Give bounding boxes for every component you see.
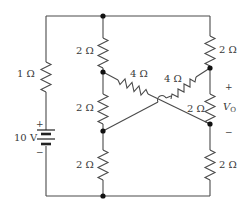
node-A — [100, 69, 105, 74]
vo-minus-sign: − — [225, 128, 233, 137]
resistor-right-bottom-icon — [205, 150, 215, 180]
resistor-diag-right-label: 4 Ω — [164, 74, 182, 84]
circuit-diagram: 1 Ω 2 Ω 2 Ω 2 Ω 2 Ω 2 Ω 2 Ω 4 Ω 4 Ω 10 V… — [0, 0, 248, 214]
source-voltage-label: 10 V — [14, 133, 37, 143]
diag-wire-C-end — [103, 102, 158, 131]
resistor-mid-top-icon — [98, 38, 108, 68]
diag-wire-C-mid — [166, 96, 171, 98]
node-C — [207, 65, 212, 70]
resistor-mid-center-label: 2 Ω — [76, 103, 94, 113]
resistor-right-top-label: 2 Ω — [219, 45, 237, 55]
vo-label: VO — [223, 102, 236, 114]
resistor-diag-left-icon — [118, 79, 148, 95]
resistor-1ohm-icon — [41, 62, 51, 92]
resistor-mid-center-icon — [98, 94, 108, 124]
resistor-mid-bottom-icon — [98, 150, 108, 180]
resistor-1ohm-label: 1 Ω — [17, 69, 35, 79]
node-D — [207, 121, 212, 126]
resistor-right-center-label: 2 Ω — [187, 104, 205, 114]
vo-plus-sign: + — [225, 83, 233, 92]
vo-label-sub: O — [230, 106, 236, 114]
resistor-right-center-icon — [205, 94, 215, 124]
battery-icon — [37, 130, 55, 144]
circuit-schematic — [0, 0, 248, 214]
node-bottom-mid — [100, 193, 105, 198]
node-B — [100, 128, 105, 133]
resistor-mid-top-label: 2 Ω — [76, 46, 94, 56]
node-top-mid — [100, 13, 105, 18]
source-plus-sign: + — [36, 120, 44, 129]
resistor-mid-bottom-label: 2 Ω — [76, 160, 94, 170]
resistor-right-bottom-label: 2 Ω — [219, 160, 237, 170]
resistor-right-top-icon — [205, 36, 215, 66]
source-minus-sign: − — [36, 148, 44, 157]
resistor-diag-left-label: 4 Ω — [130, 69, 148, 79]
